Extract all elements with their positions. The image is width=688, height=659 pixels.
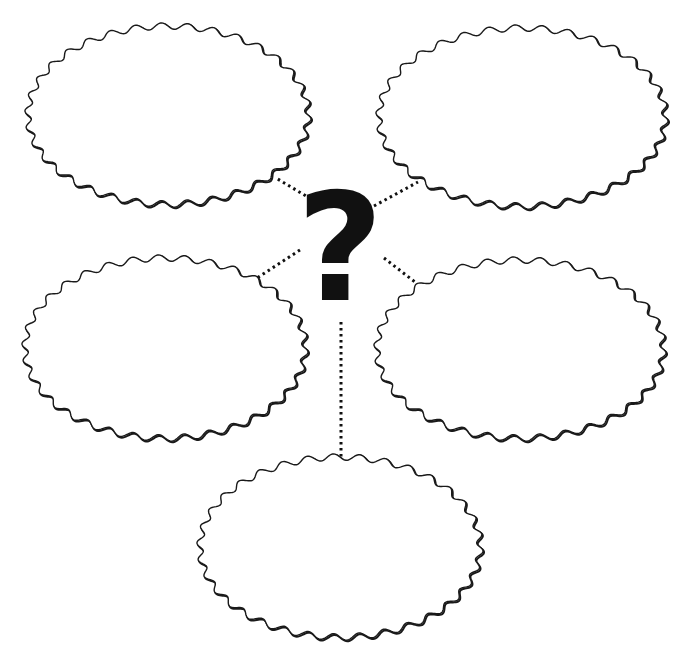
bubble-outline <box>197 454 483 640</box>
bubble-top-left[interactable] <box>25 23 312 208</box>
bubble-outline <box>22 255 308 441</box>
bubble-middle-left[interactable] <box>22 255 309 442</box>
bubble-bottom[interactable] <box>197 454 484 641</box>
bubble-middle-right[interactable] <box>374 257 667 442</box>
bubble-outline <box>376 25 668 209</box>
bubble-outline <box>374 257 666 441</box>
bubble-outline <box>25 23 311 207</box>
bubble-top-right[interactable] <box>376 25 669 210</box>
question-mark-icon: ? <box>290 178 390 318</box>
